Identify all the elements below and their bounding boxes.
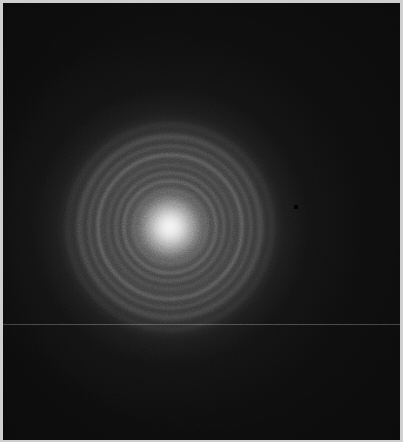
overlay-label-layer	[3, 3, 400, 440]
diffraction-pattern-viewport	[0, 0, 403, 442]
detector-plate-image	[3, 3, 400, 440]
